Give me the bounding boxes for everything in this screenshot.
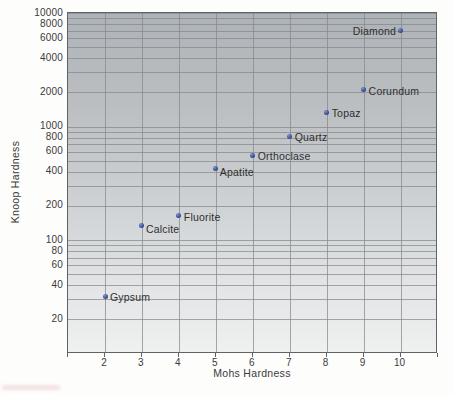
x-axis-title: Mohs Hardness — [213, 367, 290, 379]
x-tick-label: 10 — [388, 357, 412, 368]
y-tick-label: 2000 — [3, 86, 63, 97]
x-tick-label: 9 — [351, 357, 375, 368]
h-gridline — [68, 186, 436, 187]
data-point — [139, 223, 144, 228]
x-tick-label: 5 — [203, 357, 227, 368]
h-gridline — [68, 161, 436, 162]
data-point — [213, 166, 218, 171]
y-tick-label: 20 — [3, 313, 63, 324]
data-point — [324, 110, 329, 115]
h-gridline — [68, 47, 436, 48]
v-gridline — [290, 13, 291, 352]
y-tick-label: 6000 — [3, 32, 63, 43]
y-tick-label: 4000 — [3, 52, 63, 63]
y-tick-label: 200 — [3, 199, 63, 210]
data-point — [398, 28, 403, 33]
data-point — [103, 294, 108, 299]
x-axis-tick-mark — [363, 353, 364, 357]
point-label: Corundum — [369, 85, 420, 97]
v-gridline — [327, 13, 328, 352]
v-gridline — [105, 13, 106, 352]
point-label: Quartz — [295, 131, 328, 143]
h-gridline — [68, 127, 436, 128]
h-gridline — [68, 138, 436, 139]
point-label: Diamond — [353, 25, 396, 37]
y-tick-label: 600 — [3, 145, 63, 156]
h-gridline — [68, 13, 436, 14]
h-gridline — [68, 285, 436, 286]
v-gridline — [364, 13, 365, 352]
y-tick-label: 1000 — [3, 120, 63, 131]
x-tick-label: 6 — [240, 357, 264, 368]
v-gridline — [179, 13, 180, 352]
point-label: Orthoclase — [258, 150, 311, 162]
y-tick-label: 8000 — [3, 18, 63, 29]
h-gridline — [68, 251, 436, 252]
h-gridline — [68, 265, 436, 266]
y-tick-label: 100 — [3, 234, 63, 245]
point-label: Calcite — [146, 223, 180, 235]
h-gridline — [68, 132, 436, 133]
data-point — [176, 213, 181, 218]
scan-smudge — [2, 385, 60, 390]
x-axis-tick-mark — [67, 353, 68, 357]
h-gridline — [68, 72, 436, 73]
x-axis-tick-mark — [178, 353, 179, 357]
x-axis-tick-mark — [141, 353, 142, 357]
h-gridline — [68, 38, 436, 39]
h-gridline — [68, 245, 436, 246]
h-gridline — [68, 58, 436, 59]
h-gridline — [68, 206, 436, 207]
point-label: Apatite — [220, 166, 254, 178]
x-tick-label: 4 — [166, 357, 190, 368]
x-axis-tick-mark — [326, 353, 327, 357]
y-tick-label: 10000 — [3, 7, 63, 18]
x-axis-tick-mark — [215, 353, 216, 357]
v-gridline — [253, 13, 254, 352]
x-tick-label: 3 — [129, 357, 153, 368]
x-axis-tick-mark — [437, 353, 438, 357]
x-axis-tick-mark — [400, 353, 401, 357]
h-gridline — [68, 319, 436, 320]
h-gridline — [68, 240, 436, 241]
h-gridline — [68, 258, 436, 259]
point-label: Fluorite — [184, 211, 221, 223]
y-tick-label: 60 — [3, 259, 63, 270]
y-tick-label: 40 — [3, 279, 63, 290]
point-label: Gypsum — [110, 291, 150, 303]
x-axis-tick-mark — [289, 353, 290, 357]
point-label: Topaz — [332, 107, 361, 119]
y-tick-label: 80 — [3, 245, 63, 256]
x-tick-label: 8 — [314, 357, 338, 368]
data-point — [287, 134, 292, 139]
x-axis-tick-mark — [252, 353, 253, 357]
h-gridline — [68, 144, 436, 145]
h-gridline — [68, 18, 436, 19]
x-tick-label: 7 — [277, 357, 301, 368]
y-tick-label: 800 — [3, 131, 63, 142]
chart-figure: Knoop Hardness GypsumCalciteFluoriteApat… — [0, 0, 453, 395]
x-tick-label: 2 — [92, 357, 116, 368]
data-point — [250, 153, 255, 158]
y-tick-label: 400 — [3, 165, 63, 176]
v-gridline — [216, 13, 217, 352]
h-gridline — [68, 274, 436, 275]
x-axis-tick-mark — [104, 353, 105, 357]
plot-area: GypsumCalciteFluoriteApatiteOrthoclaseQu… — [67, 12, 437, 353]
v-gridline — [401, 13, 402, 352]
